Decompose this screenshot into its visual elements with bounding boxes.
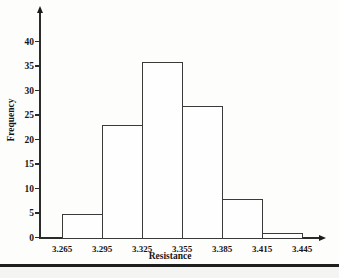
x-tick-label: 3.415 <box>244 244 280 254</box>
y-tick-label: 40 <box>8 37 34 47</box>
histogram-bar <box>102 125 143 239</box>
x-axis-arrow-icon <box>319 235 326 241</box>
y-tick-label: 0 <box>8 233 34 243</box>
y-tick-label: 15 <box>8 159 34 169</box>
page-bottom-margin <box>0 267 339 278</box>
x-tick-label: 3.295 <box>84 244 120 254</box>
y-tick-mark <box>35 90 40 91</box>
y-tick-mark <box>35 114 40 115</box>
x-tick-label: 3.325 <box>124 244 160 254</box>
y-tick-label: 35 <box>8 61 34 71</box>
x-tick-label: 3.355 <box>164 244 200 254</box>
y-tick-mark <box>35 237 40 238</box>
histogram-bar <box>222 199 263 239</box>
y-tick-mark <box>35 163 40 164</box>
histogram-bar <box>142 62 183 239</box>
y-tick-mark <box>35 139 40 140</box>
x-tick-label: 3.385 <box>204 244 240 254</box>
histogram-bar <box>182 106 223 239</box>
y-axis-line <box>39 11 40 238</box>
x-tick-label: 3.265 <box>44 244 80 254</box>
y-tick-label: 20 <box>8 135 34 145</box>
y-tick-label: 30 <box>8 86 34 96</box>
histogram-figure: Frequency Resistance 0510152025303540 3.… <box>0 0 339 278</box>
y-tick-label: 5 <box>8 208 34 218</box>
y-tick-label: 10 <box>8 184 34 194</box>
histogram-bar <box>262 233 303 239</box>
histogram-bar <box>62 214 103 240</box>
x-tick-label: 3.445 <box>284 244 320 254</box>
y-tick-mark <box>35 212 40 213</box>
y-tick-mark <box>35 65 40 66</box>
y-tick-mark <box>35 41 40 42</box>
y-tick-label: 25 <box>8 110 34 120</box>
y-axis-arrow-icon <box>37 6 43 13</box>
y-tick-mark <box>35 188 40 189</box>
